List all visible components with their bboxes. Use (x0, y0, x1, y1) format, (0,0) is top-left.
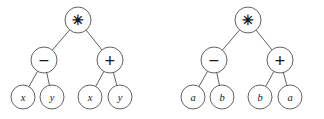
node-root-multiply[interactable]: ✳ (235, 7, 261, 33)
node-root-multiply-label: ✳ (242, 13, 254, 28)
leaf-b-2-label: b (257, 92, 262, 103)
node-add-label: + (275, 50, 286, 71)
node-add[interactable]: + (97, 47, 123, 73)
leaf-y-2-label: y (117, 92, 123, 103)
leaf-b-2[interactable]: b (248, 85, 272, 109)
node-subtract-label: − (209, 50, 220, 71)
leaf-y-1-label: y (49, 92, 55, 103)
node-root-multiply-label: ✳ (72, 13, 84, 28)
leaf-y-2[interactable]: y (108, 85, 132, 109)
node-subtract[interactable]: − (31, 47, 57, 73)
leaf-a-2[interactable]: a (278, 85, 302, 109)
leaf-x-2[interactable]: x (78, 85, 102, 109)
node-add-label: + (105, 50, 116, 71)
leaf-a-1[interactable]: a (181, 85, 205, 109)
leaf-a-2-label: a (287, 92, 292, 103)
node-subtract-label: − (39, 50, 50, 71)
leaf-b-1-label: b (219, 92, 224, 103)
leaf-x-1-label: x (20, 92, 26, 103)
leaf-y-1[interactable]: y (40, 85, 64, 109)
leaf-x-1[interactable]: x (11, 85, 35, 109)
node-root-multiply[interactable]: ✳ (65, 7, 91, 33)
leaf-b-1[interactable]: b (210, 85, 234, 109)
leaf-a-1-label: a (190, 92, 195, 103)
node-subtract[interactable]: − (201, 47, 227, 73)
expression-trees-figure: ✳−+xyxy✳−+abba (0, 0, 324, 119)
node-add[interactable]: + (267, 47, 293, 73)
leaf-x-2-label: x (87, 92, 93, 103)
